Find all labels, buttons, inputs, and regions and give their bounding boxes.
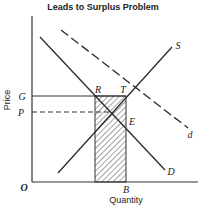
x-axis-label: Quantity [109,195,143,205]
label-d-upper: D [166,166,175,177]
surplus-diagram: Leads to Surplus Problem Price Quantity … [0,0,206,210]
label-p: P [17,107,24,118]
label-r: R [94,84,101,95]
label-d-lower: d [188,129,194,140]
origin-label: O [20,182,27,193]
surplus-area [95,96,126,182]
label-s: S [176,40,181,51]
diagram-title: Leads to Surplus Problem [47,2,159,12]
label-t: T [120,84,127,95]
label-g: G [18,91,25,102]
label-b: B [123,184,129,195]
y-axis-label: Price [2,90,12,111]
label-e: E [128,116,135,127]
